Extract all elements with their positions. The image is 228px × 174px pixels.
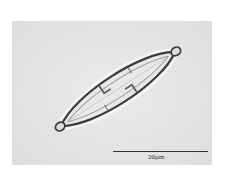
scale-bar-label: 20µm (148, 153, 164, 161)
diatom-illustration (12, 21, 212, 165)
micrograph-panel: 20µm (12, 21, 212, 165)
scale-bar (113, 151, 208, 152)
